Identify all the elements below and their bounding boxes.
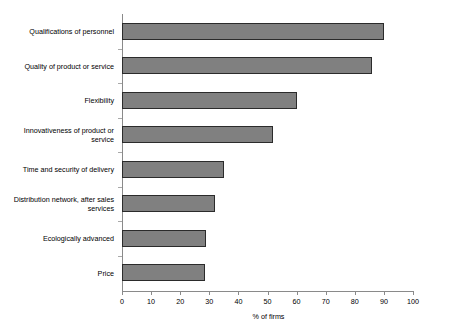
x-axis-tick-label: 80: [351, 297, 359, 306]
x-axis-tick: [326, 291, 327, 295]
x-axis-tick-label: 30: [205, 297, 213, 306]
x-axis-tick: [268, 291, 269, 295]
bar-chart: Qualifications of personnelQuality of pr…: [0, 0, 449, 334]
bar[interactable]: [122, 195, 215, 212]
x-axis-tick-label: 70: [322, 297, 330, 306]
bar[interactable]: [122, 161, 224, 178]
x-axis-tick-label: 20: [176, 297, 184, 306]
x-axis-tick-label: 0: [120, 297, 124, 306]
category-axis-labels: Qualifications of personnelQuality of pr…: [0, 14, 118, 290]
bar[interactable]: [122, 264, 205, 281]
category-label: Ecologically advanced: [0, 234, 114, 243]
y-axis-tick: [118, 187, 122, 188]
x-axis-tick: [384, 291, 385, 295]
category-label: Quality of product or service: [0, 61, 114, 70]
plot-area: [122, 14, 413, 290]
bar[interactable]: [122, 92, 297, 109]
x-axis-tick: [238, 291, 239, 295]
y-axis-tick: [118, 221, 122, 222]
y-axis-tick: [118, 118, 122, 119]
x-axis-tick-label: 10: [147, 297, 155, 306]
bar-row: [122, 14, 413, 49]
bar-row: [122, 256, 413, 291]
bar-row: [122, 221, 413, 256]
bar[interactable]: [122, 23, 384, 40]
bar-row: [122, 152, 413, 187]
x-axis-tick: [209, 291, 210, 295]
bar-row: [122, 187, 413, 222]
bar[interactable]: [122, 57, 372, 74]
category-label: Price: [0, 268, 114, 277]
x-axis-tick: [122, 291, 123, 295]
y-axis-tick: [118, 83, 122, 84]
x-axis-tick-label: 60: [293, 297, 301, 306]
x-axis-tick-label: 50: [264, 297, 272, 306]
category-label: Innovativeness of product or service: [0, 126, 114, 144]
x-axis-tick: [297, 291, 298, 295]
x-axis-tick-label: 40: [234, 297, 242, 306]
bar[interactable]: [122, 126, 273, 143]
y-axis-tick: [118, 49, 122, 50]
x-axis-tick: [180, 291, 181, 295]
category-label: Distribution network, after sales servic…: [0, 195, 114, 213]
bar-row: [122, 83, 413, 118]
x-axis-title: % of firms: [0, 312, 449, 321]
x-axis-tick: [355, 291, 356, 295]
x-axis-tick: [413, 291, 414, 295]
category-label: Qualifications of personnel: [0, 27, 114, 36]
x-axis-title-text: % of firms: [253, 312, 285, 321]
bar[interactable]: [122, 230, 206, 247]
y-axis-tick: [118, 152, 122, 153]
y-axis-tick: [118, 256, 122, 257]
x-axis-tick-label: 100: [407, 297, 419, 306]
category-label: Flexibility: [0, 96, 114, 105]
bar-row: [122, 118, 413, 153]
x-axis-tick-label: 90: [380, 297, 388, 306]
x-axis-tick: [151, 291, 152, 295]
bar-row: [122, 49, 413, 84]
category-label: Time and security of delivery: [0, 165, 114, 174]
